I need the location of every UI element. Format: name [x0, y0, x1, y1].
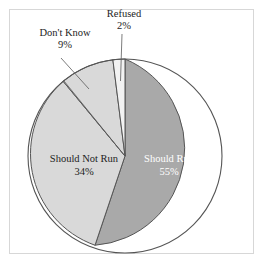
value-should-run: 55%: [159, 166, 179, 177]
label-dont-know: Don't Know: [39, 27, 91, 38]
pie-chart-svg: Refused 2% Don't Know 9% Should Not Run …: [0, 0, 266, 271]
label-should-run: Should Run: [144, 153, 195, 164]
value-refused: 2%: [117, 20, 131, 31]
label-should-not-run: Should Not Run: [50, 153, 119, 164]
pie-chart-figure: Refused 2% Don't Know 9% Should Not Run …: [0, 0, 266, 271]
value-dont-know: 9%: [58, 39, 72, 50]
label-refused: Refused: [107, 8, 142, 19]
value-should-not-run: 34%: [74, 166, 94, 177]
